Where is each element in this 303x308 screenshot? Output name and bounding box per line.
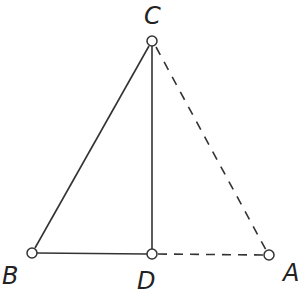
point-a-marker bbox=[264, 250, 274, 260]
label-c: C bbox=[144, 2, 161, 30]
point-d-marker bbox=[147, 249, 157, 259]
point-b-marker bbox=[27, 248, 37, 258]
label-d: D bbox=[137, 267, 155, 295]
segment-bc bbox=[35, 46, 149, 248]
segment-ca-dashed bbox=[156, 47, 266, 250]
segment-da-dashed bbox=[158, 254, 264, 255]
label-a: A bbox=[281, 259, 299, 287]
triangle-diagram: C B D A bbox=[0, 0, 303, 308]
segment-bd bbox=[37, 253, 147, 254]
point-c-marker bbox=[147, 36, 157, 46]
label-b: B bbox=[2, 262, 18, 290]
